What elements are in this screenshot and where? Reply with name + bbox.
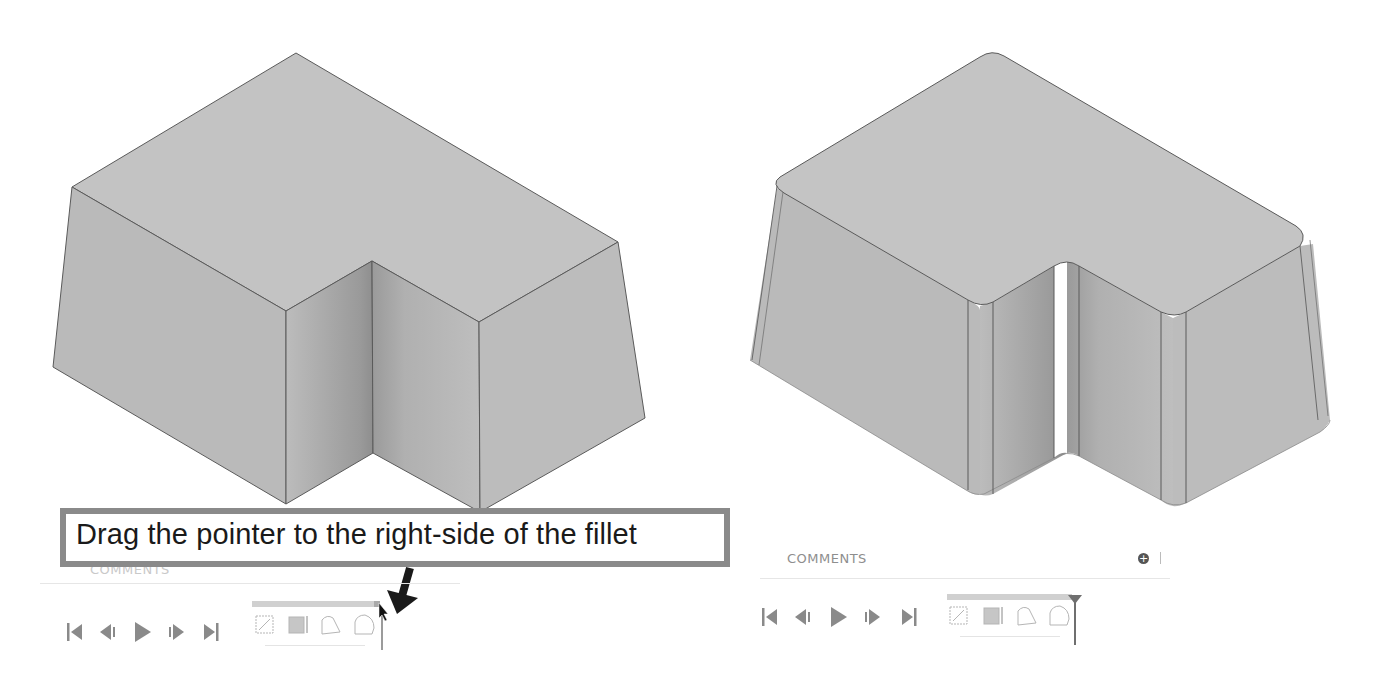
model-after-fillet[interactable] [750,53,1330,506]
panel-resize-handle[interactable] [1160,552,1161,564]
model-canvas [0,0,1389,681]
comments-label-right: COMMENTS [787,551,867,566]
screenshot-composite: COMMENTS [0,0,1389,681]
instruction-text: Drag the pointer to the right-side of th… [76,518,637,551]
instruction-callout: Drag the pointer to the right-side of th… [60,508,730,567]
model-before-fillet[interactable] [53,53,645,512]
panel-divider [760,578,1170,579]
add-comment-button[interactable]: + [1138,553,1149,564]
instruction-arrow-icon [387,568,418,614]
panel-divider [40,583,460,584]
